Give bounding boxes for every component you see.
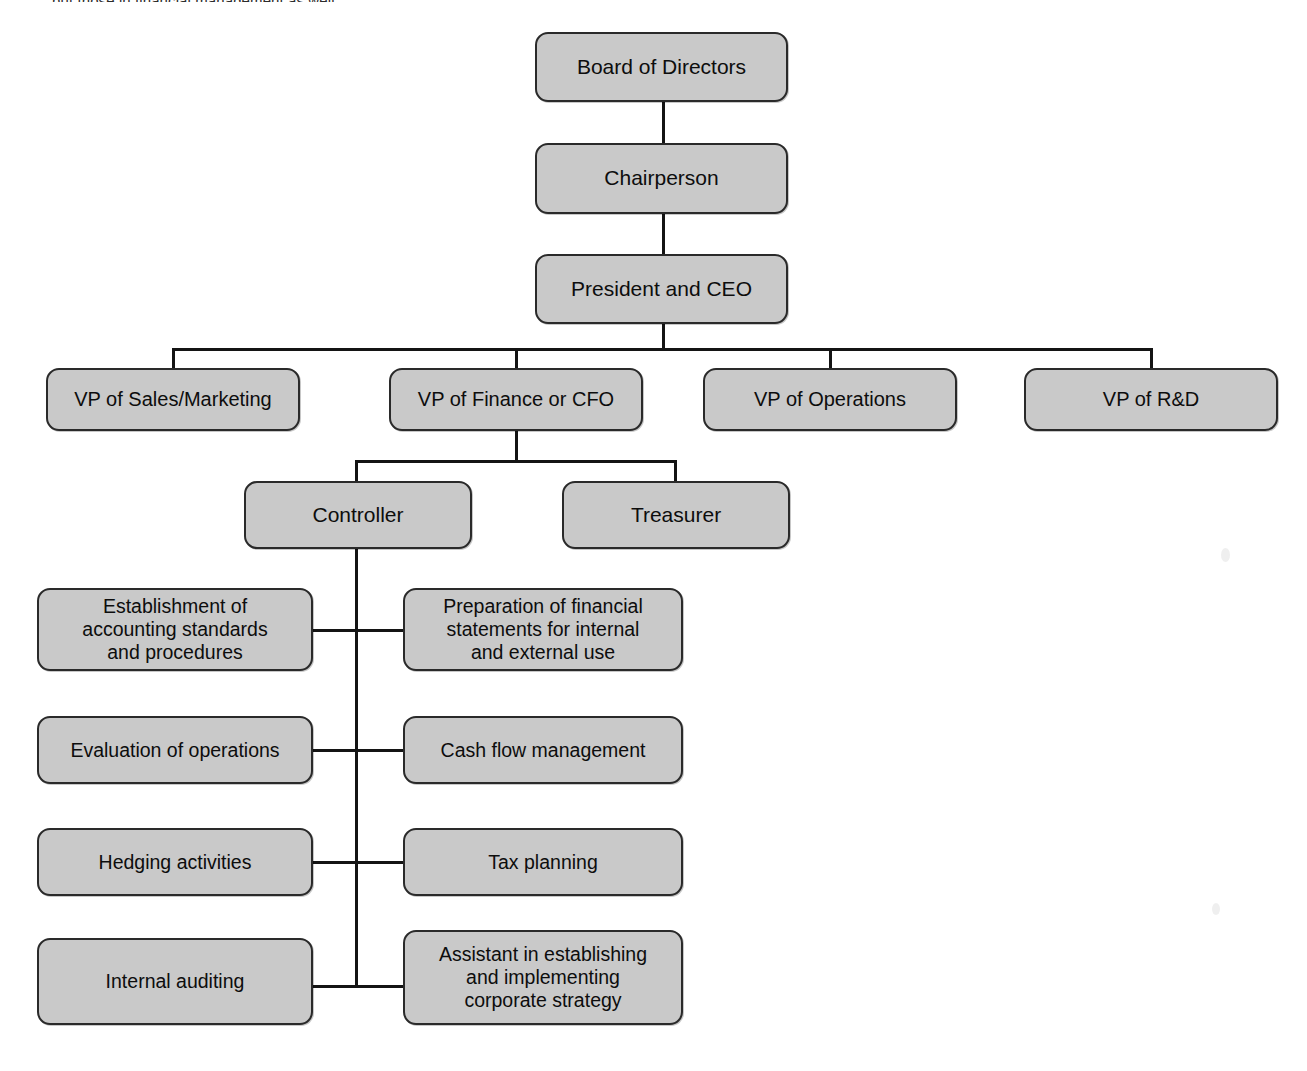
connector-vp-bus <box>172 348 1153 351</box>
connector-duty-row-2 <box>311 749 405 752</box>
node-vp-sales-marketing-label: VP of Sales/Marketing <box>74 388 272 412</box>
page-running-text: but those in financial management as wel… <box>52 0 339 2</box>
node-vp-operations[interactable]: VP of Operations <box>703 368 957 431</box>
connector-drop-treasurer <box>674 460 677 482</box>
node-duty-hedging-label: Hedging activities <box>99 851 252 874</box>
node-duty-corporate-strategy-label: Assistant in establishing and implementi… <box>439 943 647 1012</box>
node-vp-rd-label: VP of R&D <box>1103 388 1199 412</box>
node-controller[interactable]: Controller <box>244 481 472 549</box>
connector-board-to-chairperson <box>662 101 665 144</box>
node-duty-tax-planning-label: Tax planning <box>488 851 598 874</box>
node-duty-evaluation-operations[interactable]: Evaluation of operations <box>37 716 313 784</box>
node-vp-finance-cfo-label: VP of Finance or CFO <box>418 388 614 412</box>
scan-artifact <box>1212 903 1220 915</box>
connector-drop-controller <box>355 460 358 482</box>
org-chart-canvas: but those in financial management as wel… <box>0 0 1307 1071</box>
node-duty-evaluation-operations-label: Evaluation of operations <box>70 739 279 762</box>
node-board-of-directors-label: Board of Directors <box>577 55 746 80</box>
connector-drop-vp-rd <box>1150 348 1153 370</box>
connector-drop-vp-sales <box>172 348 175 370</box>
connector-controller-spine <box>355 548 358 988</box>
node-duty-accounting-standards[interactable]: Establishment of accounting standards an… <box>37 588 313 671</box>
node-duty-financial-statements[interactable]: Preparation of financial statements for … <box>403 588 683 671</box>
node-vp-rd[interactable]: VP of R&D <box>1024 368 1278 431</box>
node-vp-sales-marketing[interactable]: VP of Sales/Marketing <box>46 368 300 431</box>
node-controller-label: Controller <box>312 503 403 528</box>
node-duty-cash-flow-label: Cash flow management <box>441 739 646 762</box>
node-president-ceo-label: President and CEO <box>571 277 752 302</box>
node-treasurer[interactable]: Treasurer <box>562 481 790 549</box>
node-duty-hedging[interactable]: Hedging activities <box>37 828 313 896</box>
node-chairperson-label: Chairperson <box>604 166 718 191</box>
connector-president-drop <box>662 323 665 350</box>
node-treasurer-label: Treasurer <box>631 503 721 528</box>
node-board-of-directors[interactable]: Board of Directors <box>535 32 788 102</box>
node-chairperson[interactable]: Chairperson <box>535 143 788 214</box>
scan-artifact <box>1221 548 1230 562</box>
node-duty-internal-auditing[interactable]: Internal auditing <box>37 938 313 1025</box>
connector-drop-vp-operations <box>829 348 832 370</box>
connector-drop-vp-finance <box>515 348 518 370</box>
node-vp-finance-cfo[interactable]: VP of Finance or CFO <box>389 368 643 431</box>
node-duty-financial-statements-label: Preparation of financial statements for … <box>443 595 642 664</box>
connector-duty-row-4 <box>311 985 405 988</box>
node-duty-corporate-strategy[interactable]: Assistant in establishing and implementi… <box>403 930 683 1025</box>
connector-duty-row-1 <box>311 629 405 632</box>
connector-chairperson-to-president <box>662 213 665 255</box>
connector-duty-row-3 <box>311 861 405 864</box>
node-duty-accounting-standards-label: Establishment of accounting standards an… <box>82 595 267 664</box>
node-vp-operations-label: VP of Operations <box>754 388 906 412</box>
connector-vpfinance-drop <box>515 430 518 462</box>
node-duty-tax-planning[interactable]: Tax planning <box>403 828 683 896</box>
node-duty-cash-flow[interactable]: Cash flow management <box>403 716 683 784</box>
connector-finance-bus <box>355 460 677 463</box>
node-duty-internal-auditing-label: Internal auditing <box>106 970 245 993</box>
node-president-ceo[interactable]: President and CEO <box>535 254 788 324</box>
